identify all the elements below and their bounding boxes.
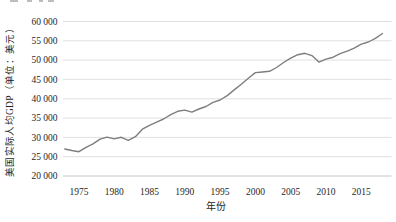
- x-tick-label: 2005: [281, 187, 300, 197]
- y-tick-label: 35 000: [31, 113, 57, 123]
- y-tick-label: 20 000: [31, 171, 57, 181]
- gdp-chart-figure: 20 00025 00030 00035 00040 00045 00050 0…: [0, 0, 396, 222]
- y-tick-label: 50 000: [31, 55, 57, 65]
- x-tick-label: 1995: [211, 187, 230, 197]
- x-tick-label: 2000: [246, 187, 265, 197]
- x-tick-label: 1975: [69, 187, 88, 197]
- y-tick-label: 30 000: [31, 133, 57, 143]
- y-axis-title: 美国实际人均GDP（单位：美元）: [2, 23, 16, 177]
- y-tick-label: 25 000: [31, 152, 57, 162]
- x-axis-title: 年份: [206, 198, 226, 213]
- y-tick-label: 40 000: [31, 94, 57, 104]
- x-tick-label: 2015: [352, 187, 371, 197]
- gdp-line-chart: 20 00025 00030 00035 00040 00045 00050 0…: [0, 0, 396, 222]
- x-tick-label: 2010: [317, 187, 336, 197]
- x-tick-label: 1990: [175, 187, 194, 197]
- y-tick-label: 55 000: [31, 36, 57, 46]
- x-tick-label: 1985: [140, 187, 159, 197]
- x-tick-label: 1980: [105, 187, 124, 197]
- y-tick-label: 60 000: [31, 17, 57, 27]
- y-tick-label: 45 000: [31, 75, 57, 85]
- gdp-line-series: [65, 34, 383, 152]
